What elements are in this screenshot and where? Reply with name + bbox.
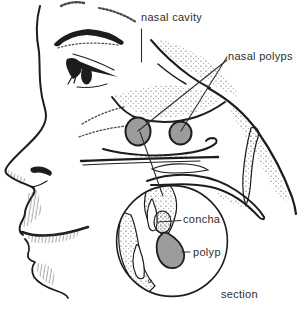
nasal-polyp-right [170,122,192,145]
brow-ridge-curve-2 [158,64,186,84]
leader-inset-connector [140,132,163,196]
label-polyp: polyp [193,246,221,259]
lower-eyelid [77,84,107,88]
label-nasal-polyps: nasal polyps [228,50,293,63]
section-inset [117,183,228,296]
nostril [30,167,51,176]
eyebrow-sketch [58,43,118,48]
label-concha: concha [183,213,220,226]
eustachian-fold [243,127,259,205]
label-nasal-cavity: nasal cavity [141,11,202,24]
eye [66,54,118,88]
soft-palate [152,164,208,173]
eyelashes [66,58,82,79]
figure-nasal-polyps: nasal cavity nasal polyps concha polyp s… [0,0,305,316]
illustration-canvas [0,0,305,316]
nose-shading [8,170,26,185]
lower-turbinate-curve [103,138,217,155]
hair-sketch-top [61,2,84,6]
lower-lip-shading [27,231,80,243]
nose-wing-line [32,181,47,187]
cheek-sketch-1 [82,107,124,124]
cheek-sketch-2 [79,126,126,137]
label-section: section [221,288,258,301]
hair-sketch-side [99,8,136,22]
cheek-stipple [230,108,290,202]
face-profile [5,2,136,298]
